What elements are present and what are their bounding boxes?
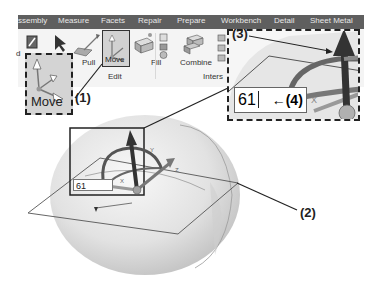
callout-move-enlarged: Move: [25, 53, 73, 115]
text-cursor: [258, 91, 263, 108]
zoomed-dimension-input[interactable]: 61 ←(4): [234, 87, 307, 113]
callout-move-label: Move: [31, 94, 63, 109]
svg-text:X: X: [311, 95, 317, 105]
leader-line-2: [237, 183, 297, 210]
annotation-3: (3): [232, 26, 248, 41]
axis-label-z: Z: [175, 167, 179, 173]
annotation-4: (4): [286, 92, 303, 108]
leader-line-zoom: [144, 88, 228, 128]
annotation-4-arrow: ←: [272, 92, 286, 108]
gizmo-origin[interactable]: [133, 186, 141, 194]
annotation-1: (1): [75, 90, 91, 105]
annotation-2: (2): [300, 205, 316, 220]
zoomed-value-text: 61: [238, 91, 256, 108]
axis-label-x: X: [120, 178, 124, 184]
axis-label-y: Y: [150, 147, 154, 153]
dimension-input[interactable]: 61: [73, 179, 113, 191]
callout-zoomed-gizmo: X 61 ←(4): [227, 29, 360, 121]
